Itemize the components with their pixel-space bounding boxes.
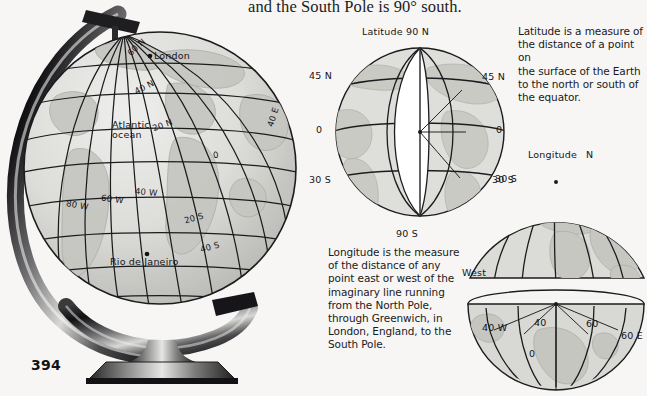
latitude-line-1: Latitude is a measure of — [518, 25, 646, 38]
longitude-line-5: from the North Pole, — [328, 299, 468, 312]
wedge-label-0-left: 0 — [316, 124, 322, 135]
latitude-definition-block: Latitude is a measure of the distance of… — [518, 25, 646, 104]
longitude-line-4: imaginary line running — [328, 286, 468, 299]
textbook-page: and the South Pole is 90° south. — [0, 0, 647, 396]
latitude-line-5: the equator. — [518, 91, 646, 104]
wedge-label-30s-left: 30 S — [309, 174, 331, 185]
bottom-globe-label-60e: 60 E — [621, 330, 643, 341]
city-dot-london — [148, 54, 153, 59]
wedge-label-latitude-90n: Latitude 90 N — [362, 26, 429, 37]
bottom-globe-label-40: 40 — [534, 317, 547, 328]
globe-label-london: London — [154, 50, 190, 61]
bottom-globe-pole-dot — [554, 302, 558, 306]
wedge-earth-centre-dot — [418, 130, 422, 134]
globe-label-0-equator: 0 — [212, 150, 219, 161]
wedge-label-45n-right: 45 N — [482, 71, 505, 82]
longitude-line-6: through Greenwich, in — [328, 312, 468, 325]
page-number: 394 — [31, 357, 61, 373]
top-globe-label-n: N — [586, 149, 593, 160]
top-globe-label-longitude: Longitude — [528, 149, 577, 160]
longitude-definition-block: Longitude is the measure of the distance… — [328, 246, 468, 352]
bottom-globe-label-40w: 40 W — [482, 322, 507, 333]
globe-label-rio: Rio de Janeiro — [110, 256, 178, 267]
longitude-line-1: Longitude is the measure — [328, 246, 468, 259]
globe-label-atlantic-line2: ocean — [112, 129, 142, 140]
latitude-line-4: to the north or south of — [518, 78, 646, 91]
wedge-label-45n-left: 45 N — [309, 70, 332, 81]
bottom-globe-label-0: 0 — [529, 348, 535, 359]
bottom-globe-label-60: 60 — [586, 318, 599, 329]
latitude-line-3: the surface of the Earth — [518, 65, 646, 78]
longitude-line-2: of the distance of any — [328, 259, 468, 272]
longitude-globe-bottom-figure — [466, 286, 647, 396]
wedge-label-0-right: 0 — [496, 124, 502, 135]
latitude-line-2: the distance of a point on — [518, 38, 646, 64]
top-globe-north-pole-dot — [554, 180, 558, 184]
longitude-line-8: South Pole. — [328, 338, 468, 351]
wedge-label-90s: 90 S — [396, 228, 418, 239]
longitude-globe-top-figure — [466, 158, 647, 282]
longitude-line-3: point east or west of the — [328, 272, 468, 285]
longitude-line-7: London, England, to the — [328, 325, 468, 338]
globe-label-40w: 40 W — [135, 186, 159, 198]
top-globe-label-30s: 30 S — [495, 173, 517, 184]
